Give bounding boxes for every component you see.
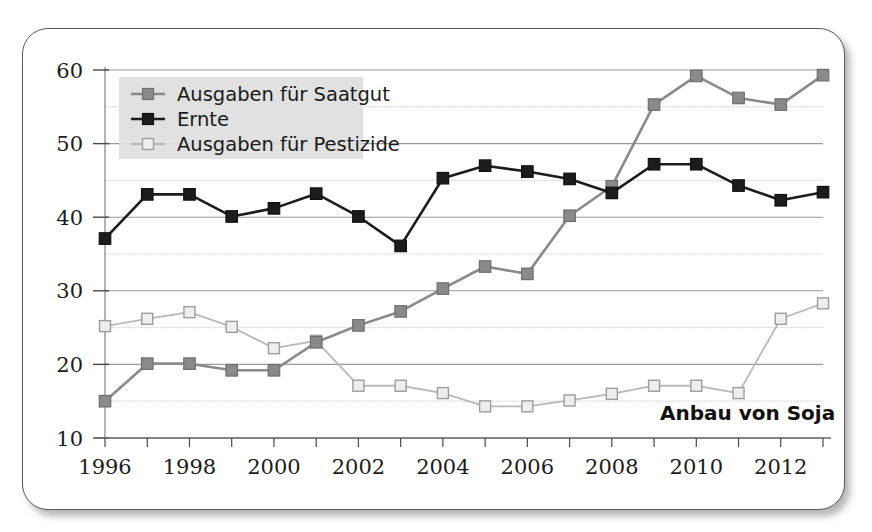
annotation-label: Anbau von Soja [660,401,835,425]
data-point-marker [818,298,829,309]
data-point-marker [142,313,153,324]
data-point-marker [691,158,703,170]
data-point-marker [437,388,448,399]
x-tick-label: 1998 [163,455,216,479]
data-point-marker [143,139,154,150]
data-point-marker [817,186,829,198]
data-point-marker [100,321,111,332]
data-point-marker [353,211,365,223]
data-point-marker [268,343,279,354]
data-point-marker [564,395,575,406]
data-point-marker [226,321,237,332]
data-point-marker [480,401,491,412]
x-tick-label: 2012 [754,455,807,479]
x-axis [95,438,831,447]
x-tick-label: 2002 [332,455,385,479]
data-point-marker [691,70,703,82]
data-point-marker [395,240,407,252]
data-point-marker [184,189,196,201]
data-point-marker [522,166,534,178]
data-point-marker [606,187,618,199]
x-tick-label: 2010 [670,455,723,479]
data-point-marker [99,395,111,407]
data-point-marker [817,69,829,81]
data-point-marker [733,180,745,192]
legend-label: Ausgaben für Saatgut [177,83,390,106]
data-point-marker [775,99,787,111]
legend-label: Ernte [177,108,229,131]
y-tick-label: 30 [56,279,83,303]
data-point-marker [564,210,576,222]
x-tick-label: 2006 [501,455,554,479]
data-point-marker [395,380,406,391]
data-point-marker [479,160,491,172]
data-point-marker [479,261,491,273]
data-point-marker [733,388,744,399]
chart-annotation: Anbau von Soja [660,401,835,425]
data-point-marker [733,92,745,104]
y-tick-label: 20 [56,353,83,377]
data-point-marker [648,99,660,111]
chart-legend: Ausgaben für SaatgutErnteAusgaben für Pe… [119,77,400,159]
x-tick-label: 2008 [585,455,638,479]
data-point-marker [522,401,533,412]
data-point-marker [99,233,111,245]
data-point-marker [437,283,449,295]
x-tick-labels: 199619982000200220042006200820102012 [78,455,807,479]
data-point-marker [268,203,280,215]
data-point-marker [141,189,153,201]
x-tick-label: 2004 [416,455,469,479]
data-point-marker [184,307,195,318]
data-point-marker [606,388,617,399]
y-tick-label: 40 [56,206,83,230]
data-point-marker [143,89,154,100]
line-chart: 102030405060 199619982000200220042006200… [23,29,846,511]
data-point-marker [522,268,534,280]
data-point-marker [564,173,576,185]
data-point-marker [226,211,238,223]
y-tick-labels: 102030405060 [56,59,83,451]
data-point-marker [143,114,154,125]
x-tick-label: 1996 [78,455,131,479]
series-line [105,164,823,246]
y-axis [93,67,109,438]
data-point-marker [648,158,660,170]
x-tick-label: 2000 [247,455,300,479]
data-point-marker [775,313,786,324]
data-point-marker [691,380,702,391]
series-3 [100,298,829,412]
data-point-marker [437,172,449,184]
data-point-marker [268,365,280,377]
data-point-marker [353,320,365,332]
legend-label: Ausgaben für Pestizide [177,133,400,156]
data-point-marker [184,358,196,370]
data-point-marker [226,365,238,377]
series-line [105,303,823,406]
data-point-marker [775,195,787,207]
data-point-marker [649,380,660,391]
series-2 [99,158,829,251]
data-point-marker [353,380,364,391]
chart-frame: 102030405060 199619982000200220042006200… [22,28,845,510]
y-tick-label: 50 [56,132,83,156]
y-tick-label: 60 [56,59,83,83]
data-point-marker [141,358,153,370]
data-point-marker [310,337,322,349]
data-point-marker [395,306,407,318]
data-point-marker [310,188,322,200]
y-tick-label: 10 [56,427,83,451]
